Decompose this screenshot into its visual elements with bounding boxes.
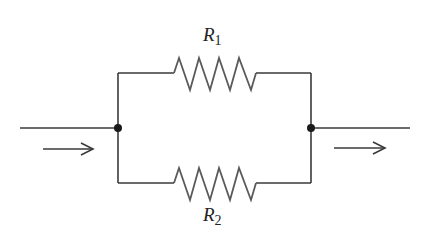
r2-label: R2 bbox=[203, 204, 222, 229]
input-current-arrow-icon bbox=[43, 143, 93, 155]
circuit-diagram: R1 R2 bbox=[0, 0, 422, 250]
resistor-r1-icon bbox=[174, 58, 256, 90]
r1-label-subscript: 1 bbox=[215, 33, 222, 48]
r1-label-name: R bbox=[203, 24, 215, 45]
r2-label-name: R bbox=[203, 204, 215, 225]
resistor-r2-icon bbox=[174, 168, 256, 200]
left-junction-node bbox=[114, 124, 122, 132]
r1-label: R1 bbox=[203, 24, 222, 49]
r2-label-subscript: 2 bbox=[215, 213, 222, 228]
right-junction-node bbox=[307, 124, 315, 132]
output-current-arrow-icon bbox=[334, 142, 385, 154]
